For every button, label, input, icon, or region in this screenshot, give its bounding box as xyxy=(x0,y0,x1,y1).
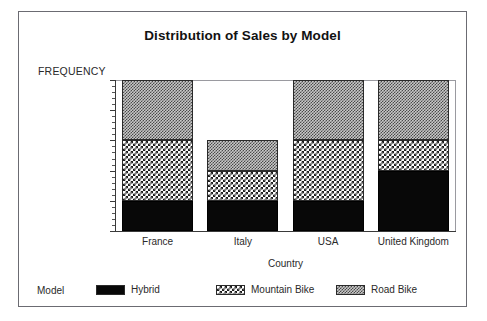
chart-figure: Distribution of Sales by Model FREQUENCY… xyxy=(0,0,487,321)
bar-segment xyxy=(378,80,449,140)
legend-entry[interactable]: Mountain Bike xyxy=(216,283,314,297)
x-tick-label: United Kingdom xyxy=(371,236,456,247)
bar-group xyxy=(122,80,193,231)
y-axis-ticks: 012345 xyxy=(0,0,115,321)
bar-segment xyxy=(378,140,449,170)
bar-segment xyxy=(122,201,193,231)
x-tick-label: France xyxy=(115,236,200,247)
bar-segment xyxy=(378,171,449,231)
x-tick-label: Italy xyxy=(200,236,285,247)
x-axis-title: Country xyxy=(115,258,456,269)
bar-group xyxy=(293,80,364,231)
bar-group xyxy=(378,80,449,231)
bar-segment xyxy=(122,140,193,200)
bars-layer xyxy=(115,80,456,231)
legend-swatch-icon xyxy=(336,285,365,295)
legend-label: Road Bike xyxy=(371,285,417,295)
bar-group xyxy=(207,80,278,231)
bar-segment xyxy=(207,140,278,170)
bar-segment xyxy=(122,80,193,140)
legend-entry[interactable]: Road Bike xyxy=(336,283,417,297)
legend-swatch-icon xyxy=(96,285,125,295)
bar-segment xyxy=(207,171,278,201)
legend-label: Hybrid xyxy=(131,285,160,295)
legend-swatch-icon xyxy=(216,285,245,295)
bar-segment xyxy=(293,140,364,200)
y-tick-mark xyxy=(110,231,115,232)
legend-title: Model xyxy=(37,285,64,296)
x-tick-label: USA xyxy=(286,236,371,247)
legend-label: Mountain Bike xyxy=(251,285,314,295)
x-axis-line xyxy=(115,231,456,232)
chart-legend: Model HybridMountain BikeRoad Bike xyxy=(18,282,467,300)
legend-entry[interactable]: Hybrid xyxy=(96,283,160,297)
bar-segment xyxy=(293,80,364,140)
x-axis-tick-labels: FranceItalyUSAUnited Kingdom xyxy=(115,236,456,252)
bar-segment xyxy=(293,201,364,231)
bar-segment xyxy=(207,201,278,231)
